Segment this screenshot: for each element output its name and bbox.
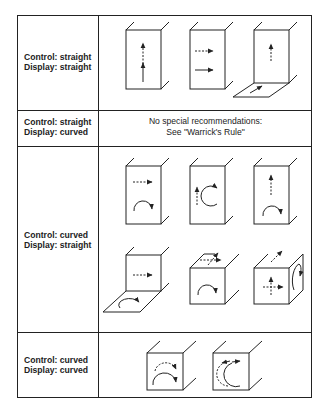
box-with-floor-rotary-icon bbox=[103, 247, 169, 312]
box-horizontal-arrow-over-rotary-icon bbox=[126, 158, 169, 224]
cube-facing-arcs-icon bbox=[213, 341, 262, 390]
cube-front-cross-side-rotary-icon bbox=[254, 251, 303, 304]
box-vertical-arrow-over-rotary-icon bbox=[254, 158, 297, 224]
cube-top-arrows-front-rotary-icon bbox=[190, 253, 239, 304]
illustrations bbox=[0, 0, 328, 414]
box-with-floor-vertical-arrows-icon bbox=[233, 22, 297, 97]
box-vertical-arrows-icon bbox=[126, 22, 169, 89]
box-horizontal-arrows-icon bbox=[190, 22, 233, 89]
cube-concentric-arcs-icon bbox=[147, 341, 196, 390]
box-vertical-arrow-beside-rotary-icon bbox=[190, 158, 233, 224]
